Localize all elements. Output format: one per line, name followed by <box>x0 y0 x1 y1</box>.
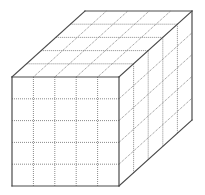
cube-svg <box>0 0 205 195</box>
front-face <box>12 77 119 186</box>
cube-diagram <box>0 0 205 195</box>
front-face-fill <box>12 77 119 186</box>
